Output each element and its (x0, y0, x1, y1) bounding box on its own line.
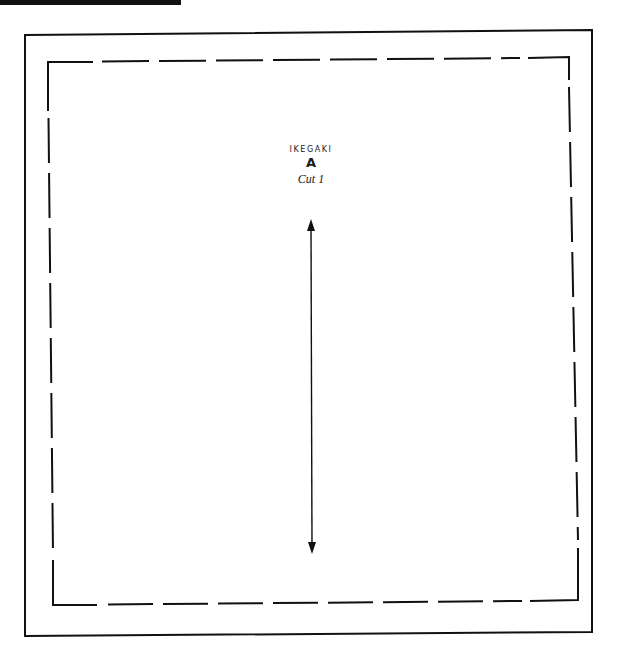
grainline-shaft (311, 226, 312, 548)
seam-line-dashed-bottom (108, 601, 522, 605)
seam-line-solid-corner-top-left (48, 62, 93, 111)
grainline-arrow (307, 219, 316, 554)
seam-line-solid-corner-bottom-left (53, 560, 97, 605)
seam-line-dashed-right (569, 87, 578, 540)
grainline-arrowhead-top (307, 219, 315, 231)
seam-line-dashed-top (102, 58, 520, 62)
piece-letter: A (211, 156, 411, 170)
pattern-sheet (0, 0, 620, 652)
seam-line-dashed-left (49, 118, 54, 553)
cutting-line (25, 30, 592, 636)
seam-line-solid-corner-top-right (528, 57, 569, 80)
pattern-name: IKEGAKI (211, 145, 411, 155)
grainline-arrowhead-bottom (308, 542, 316, 554)
cut-instruction: Cut 1 (211, 172, 411, 186)
pattern-label: IKEGAKI A Cut 1 (211, 145, 411, 186)
seam-line-solid-corner-bottom-right (530, 548, 578, 601)
